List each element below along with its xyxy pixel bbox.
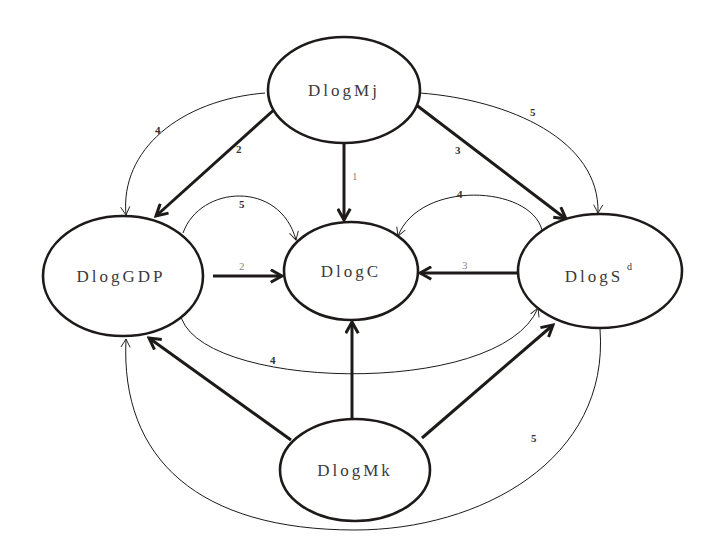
edge-sd-c-4 xyxy=(398,195,542,236)
edge-mj-gdp-4 xyxy=(126,93,265,215)
node-label-dlogmk: DlogMk xyxy=(317,461,393,480)
edge-label-sd-gdp-thin: 5 xyxy=(531,432,537,444)
edge-label-gdp-sd-thin: 4 xyxy=(270,354,276,366)
edge-label-sd-c-thick: 3 xyxy=(462,259,468,271)
node-label-dlogc: DlogC xyxy=(321,262,381,281)
node-label-dlogsd: DlogS xyxy=(565,267,623,286)
causality-diagram: DlogMj DlogGDP DlogC DlogS d DlogMk 1 2 … xyxy=(0,0,725,558)
edge-label-gdp-c-thick: 2 xyxy=(239,260,245,272)
edge-label-mj-gdp-thick: 2 xyxy=(236,143,242,155)
edge-mj-sd-3 xyxy=(415,104,566,219)
node-label-dlogmj: DlogMj xyxy=(308,81,380,100)
node-label-dlogsd-superscript: d xyxy=(627,261,632,272)
edge-mj-sd-5 xyxy=(420,93,598,213)
node-label-dloggdp: DlogGDP xyxy=(76,267,165,286)
edge-label-mj-sd-thin: 5 xyxy=(530,106,536,118)
edge-label-mj-sd-thick: 3 xyxy=(455,144,461,156)
edge-label-mj-gdp-thin: 4 xyxy=(155,124,161,136)
edge-label-mj-c: 1 xyxy=(352,170,358,182)
edge-mk-sd xyxy=(422,325,553,438)
edge-label-sd-c-thin: 4 xyxy=(457,188,463,200)
edge-label-gdp-c-thin: 5 xyxy=(239,198,245,210)
